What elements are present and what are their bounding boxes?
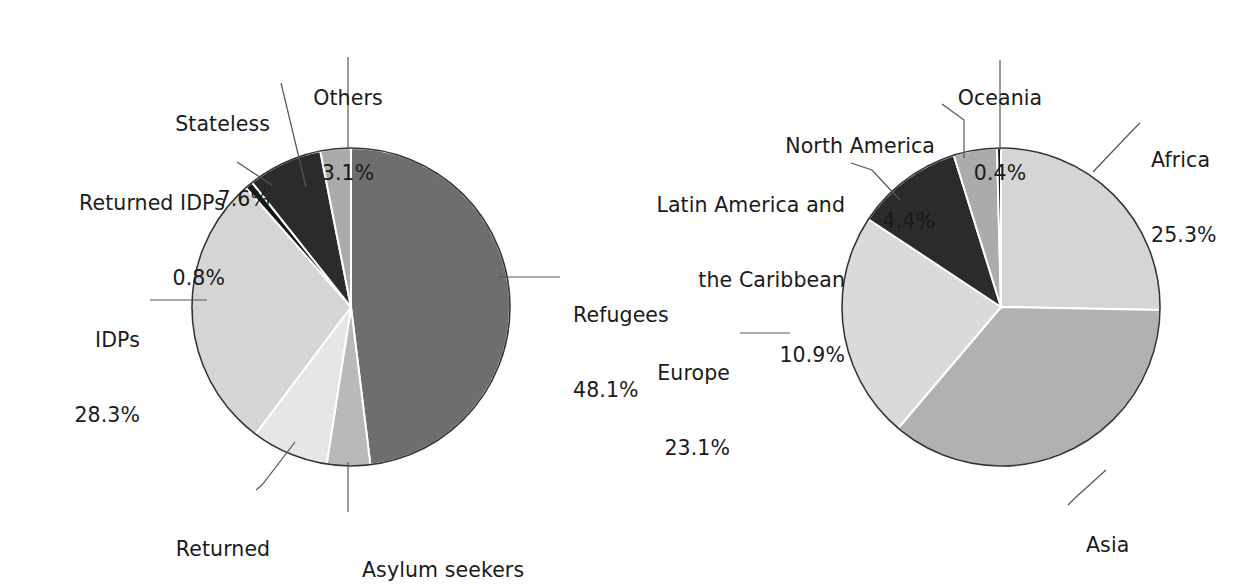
label-latin-america-name-line2: the Caribbean — [600, 268, 845, 293]
label-oceania: Oceania 0.4% — [920, 36, 1080, 236]
label-europe-pct: 23.1% — [590, 436, 730, 461]
right-pie-chart: Oceania 0.4% North America 4.4% Latin Am… — [0, 0, 1255, 585]
leader-line-africa — [1093, 123, 1140, 172]
label-africa: Africa 25.3% — [1151, 98, 1255, 298]
label-europe-name: Europe — [590, 361, 730, 386]
pie-chart-figure: Others 3.1% Stateless 7.6% Returned IDPs… — [0, 0, 1255, 585]
label-latin-america-name-line1: Latin America and — [600, 193, 845, 218]
label-oceania-name: Oceania — [920, 86, 1080, 111]
label-europe: Europe 23.1% — [590, 311, 730, 511]
label-asia: Asia 35.9% — [1086, 483, 1246, 585]
label-oceania-pct: 0.4% — [920, 161, 1080, 186]
label-africa-name: Africa — [1151, 148, 1255, 173]
label-africa-pct: 25.3% — [1151, 223, 1255, 248]
label-asia-name: Asia — [1086, 533, 1246, 558]
